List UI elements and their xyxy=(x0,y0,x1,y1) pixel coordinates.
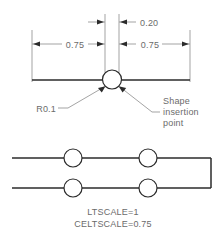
arrowhead-left-span-start xyxy=(33,42,40,47)
leader-line-insertion-point xyxy=(120,87,152,112)
arrowhead-right-span-end xyxy=(182,42,189,47)
arrowhead-insertion-point xyxy=(119,86,127,92)
callout-label-insertion-point-line3: point xyxy=(163,118,184,128)
shape-circle-upper-right xyxy=(139,149,157,167)
arrowhead-gap-right xyxy=(120,20,127,25)
technical-drawing-canvas: 0.20 0.75 0.75 R0.1 Shape insertion poin… xyxy=(0,0,224,238)
shape-circle-lower-left xyxy=(64,179,82,197)
arrowhead-left-span-end xyxy=(97,42,104,47)
arrowhead-right-span-start xyxy=(120,42,127,47)
note-celtscale: CELTSCALE=0.75 xyxy=(74,219,151,229)
shape-circle-upper-left xyxy=(64,149,82,167)
callout-label-insertion-point-line2: insertion xyxy=(163,107,199,117)
arrowhead-gap-left xyxy=(97,20,104,25)
dimension-label-right-span: 0.75 xyxy=(141,40,159,50)
callout-label-insertion-point-line1: Shape xyxy=(163,96,190,106)
shape-circle-detail xyxy=(103,70,122,89)
leader-line-radius xyxy=(68,87,104,108)
note-ltscale: LTSCALE=1 xyxy=(87,207,138,217)
callout-label-radius: R0.1 xyxy=(36,104,56,114)
dimension-label-gap: 0.20 xyxy=(140,18,158,28)
dimension-label-left-span: 0.75 xyxy=(66,40,84,50)
shape-circle-lower-right xyxy=(139,179,157,197)
arrowhead-radius xyxy=(98,86,106,92)
